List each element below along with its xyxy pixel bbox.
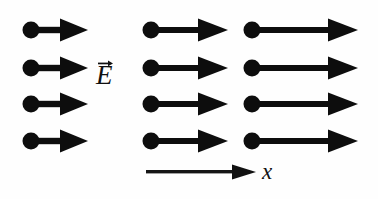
- vector-arrow: [244, 57, 359, 80]
- vector-arrow: [143, 93, 229, 116]
- electric-field-diagram: E x: [0, 0, 378, 199]
- vector-arrow: [23, 130, 89, 153]
- vector-arrow: [244, 19, 359, 42]
- vector-accent-arrow: [98, 60, 113, 67]
- vector-arrow: [244, 130, 359, 153]
- x-axis-label-text: x: [262, 159, 272, 184]
- field-label: E: [96, 62, 113, 89]
- x-axis-arrow: [146, 165, 256, 180]
- vector-arrow: [143, 19, 229, 42]
- vector-column-1: [23, 19, 89, 153]
- vector-arrow: [143, 130, 229, 153]
- vector-arrow: [23, 19, 89, 42]
- x-axis-label: x: [262, 160, 272, 183]
- vector-arrow: [23, 93, 89, 116]
- vector-arrow: [244, 93, 359, 116]
- vector-arrow: [143, 57, 229, 80]
- vector-arrow: [23, 57, 89, 80]
- vector-column-3: [244, 19, 359, 153]
- vector-field-canvas: [0, 0, 378, 199]
- vector-column-2: [143, 19, 229, 153]
